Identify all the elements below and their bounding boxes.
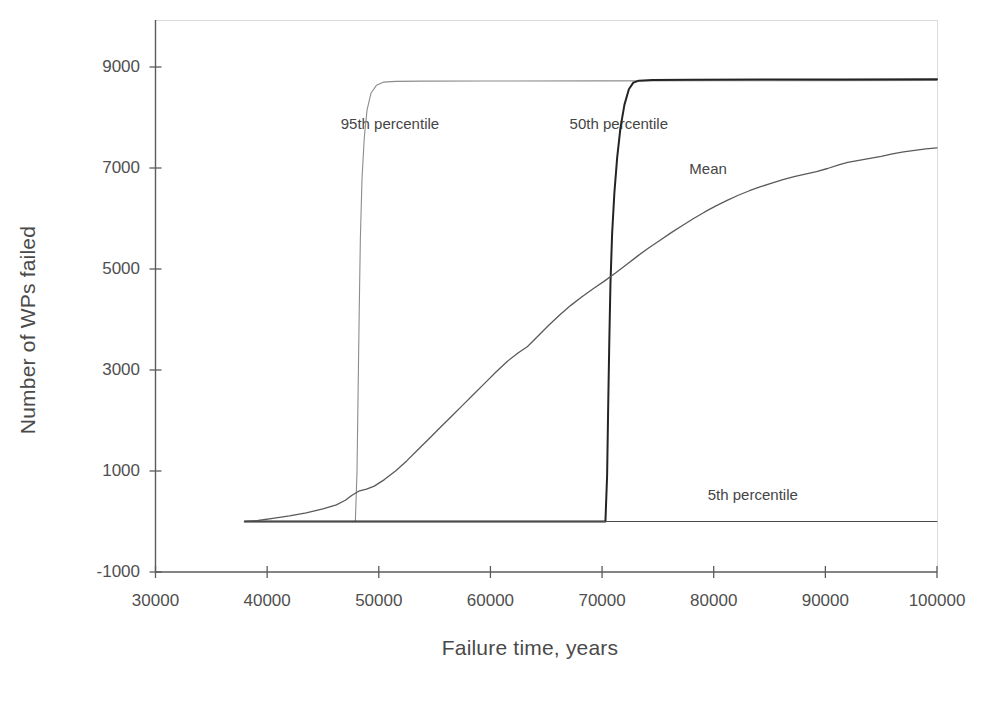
chart-figure: Number of WPs failed Failure time, years… [0, 0, 995, 702]
series-line-95th-percentile [245, 81, 937, 522]
series-line-50th-percentile [245, 79, 937, 521]
series-paths [245, 79, 937, 521]
tick-marks [150, 67, 938, 578]
axis-lines [156, 20, 938, 572]
series-line-mean [245, 148, 937, 522]
plot-canvas [0, 0, 995, 702]
